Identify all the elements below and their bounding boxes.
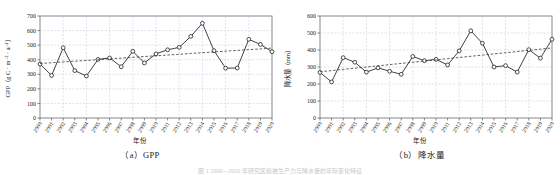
y-axis-tick-label: 100 (27, 101, 36, 107)
data-point-marker (50, 74, 54, 78)
x-axis-tick-label: 2019 (252, 121, 263, 134)
x-axis-tick-label: 2002 (335, 121, 346, 134)
y-axis-tick-label: 100 (307, 98, 316, 104)
data-point-marker (201, 21, 205, 25)
x-axis-tick-label: 2017 (509, 121, 520, 134)
x-axis-tick-label: 2004 (358, 121, 369, 134)
x-axis-tick-label: 2009 (136, 121, 147, 134)
x-axis-tick-label: 2001 (44, 121, 55, 134)
data-point-marker (318, 71, 322, 75)
x-axis-tick-label: 2000 (32, 121, 43, 134)
x-axis-tick-label: 2000 (312, 121, 323, 134)
data-point-marker (341, 56, 345, 60)
x-axis-tick-label: 2002 (55, 121, 66, 134)
data-point-marker (177, 45, 181, 49)
data-point-marker (376, 66, 380, 70)
y-axis-tick-label: 600 (307, 13, 316, 19)
data-point-marker (224, 66, 228, 70)
figure-two-panel: 0100200300400500600700200020012002200320… (0, 0, 560, 175)
data-point-marker (365, 70, 369, 74)
x-axis-tick-label: 2003 (347, 121, 358, 134)
data-point-marker (446, 63, 450, 67)
data-point-marker (353, 60, 357, 64)
x-axis-tick-label: 2007 (113, 121, 124, 134)
x-axis-tick-label: 2004 (78, 121, 89, 134)
data-point-marker (539, 56, 543, 60)
x-axis-tick-label: 2016 (218, 121, 229, 134)
data-point-marker (189, 35, 193, 39)
y-axis-tick-label: 300 (307, 64, 316, 70)
x-axis-tick-label: 2005 (370, 121, 381, 134)
x-axis-tick-label: 2003 (67, 121, 78, 134)
data-point-marker (515, 70, 519, 74)
x-axis-tick-label: 2008 (125, 121, 136, 134)
x-axis-tick-label: 2015 (206, 121, 217, 134)
x-axis-tick-label: 2008 (405, 121, 416, 134)
x-axis-tick-label: 2001 (324, 121, 335, 134)
y-axis-title: GPP（g C · m⁻² · a⁻¹） (4, 36, 11, 97)
data-point-marker (481, 41, 485, 45)
y-axis-tick-label: 0 (313, 115, 316, 121)
data-point-marker (38, 62, 42, 66)
data-point-marker (388, 69, 392, 73)
x-axis-tick-label: 2018 (241, 121, 252, 134)
panel-gpp: 0100200300400500600700200020012002200320… (0, 0, 280, 175)
data-point-marker (550, 37, 554, 41)
y-axis-tick-label: 400 (307, 47, 316, 53)
data-point-marker (247, 37, 251, 41)
x-axis-tick-label: 2006 (102, 121, 113, 134)
x-axis-tick-label: 2011 (440, 121, 451, 134)
panel-caption-gpp: （a）GPP (0, 148, 280, 160)
data-point-marker (235, 66, 239, 70)
x-axis-tick-label: 2020 (544, 121, 555, 134)
data-point-marker (73, 69, 77, 73)
x-axis-tick-label: 2014 (194, 121, 205, 134)
y-axis-tick-label: 500 (27, 42, 36, 48)
data-point-marker (527, 48, 531, 52)
data-point-marker (154, 52, 158, 56)
figure-footer-note: 图 1 2000—2020 年研究区植被生产力与降水量的年际变化特征 (0, 166, 560, 175)
y-axis-tick-label: 400 (27, 57, 36, 63)
x-axis-tick-label: 2006 (382, 121, 393, 134)
data-point-marker (399, 72, 403, 76)
x-axis-tick-label: 2016 (498, 121, 509, 134)
y-axis-tick-label: 500 (307, 30, 316, 36)
data-point-marker (270, 50, 274, 54)
data-point-marker (131, 49, 135, 53)
x-axis-tick-label: 2018 (521, 121, 532, 134)
data-point-marker (457, 49, 461, 53)
x-axis-tick-label: 2009 (416, 121, 427, 134)
panel-precipitation: 0100200300400500600200020012002200320042… (280, 0, 560, 175)
x-axis-tick-label: 2017 (229, 121, 240, 134)
y-axis-tick-label: 700 (27, 13, 36, 19)
data-point-marker (469, 29, 473, 33)
x-axis-tick-label: 2013 (183, 121, 194, 134)
y-axis-tick-label: 300 (27, 71, 36, 77)
data-point-marker (85, 74, 89, 78)
x-axis-tick-label: 2012 (451, 121, 462, 134)
x-axis-tick-label: 2013 (463, 121, 474, 134)
y-axis-tick-label: 200 (307, 81, 316, 87)
x-axis-title-gpp: 年份 (0, 135, 280, 145)
x-axis-title-precipitation: 年份 (280, 135, 560, 145)
data-point-marker (143, 61, 147, 65)
y-axis-tick-label: 200 (27, 86, 36, 92)
x-axis-tick-label: 2014 (474, 121, 485, 134)
x-axis-tick-label: 2020 (264, 121, 275, 134)
x-axis-tick-label: 2010 (428, 121, 439, 134)
data-point-marker (166, 48, 170, 52)
data-point-marker (61, 46, 65, 50)
data-point-marker (504, 64, 508, 68)
x-axis-tick-label: 2007 (393, 121, 404, 134)
x-axis-tick-label: 2005 (90, 121, 101, 134)
data-point-marker (411, 55, 415, 59)
data-point-marker (434, 57, 438, 61)
x-axis-tick-label: 2015 (486, 121, 497, 134)
panel-caption-precipitation: （b）降水量 (280, 148, 560, 160)
data-point-marker (259, 43, 263, 47)
x-axis-tick-label: 2019 (532, 121, 543, 134)
y-axis-tick-label: 0 (33, 115, 36, 121)
y-axis-title: 降水量（mm） (283, 47, 292, 87)
x-axis-tick-label: 2012 (171, 121, 182, 134)
y-axis-tick-label: 600 (27, 28, 36, 34)
